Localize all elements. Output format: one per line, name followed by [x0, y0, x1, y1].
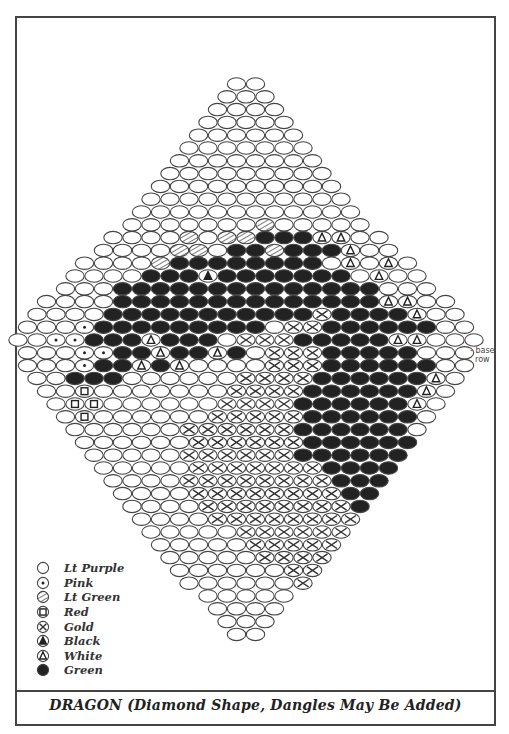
bead-pink [47, 334, 65, 346]
bead-green [313, 423, 331, 435]
bead-green [294, 449, 312, 461]
bead-gold [303, 487, 321, 499]
bead-green [189, 283, 207, 295]
bead-gold [303, 359, 321, 371]
bead-lt-purple [142, 219, 160, 231]
bead-green [398, 359, 416, 371]
bead-gold [208, 411, 226, 423]
bead-green [379, 347, 397, 359]
bead-gold [199, 500, 217, 512]
bead-lt-purple [132, 487, 150, 499]
bead-lt-purple [151, 487, 169, 499]
bead-gold [303, 513, 321, 525]
bead-green [94, 321, 112, 333]
bead-row [66, 270, 426, 282]
bead-pink [75, 359, 93, 371]
bead-green [370, 449, 388, 461]
bead-lt-purple [436, 295, 454, 307]
bead-gold [256, 398, 274, 410]
bead-lt-purple [104, 423, 122, 435]
bead-gold [265, 513, 283, 525]
bead-lt-purple [246, 180, 264, 192]
bead-green [227, 347, 245, 359]
bead-green [351, 449, 369, 461]
bead-gold [189, 436, 207, 448]
bead-gold [275, 475, 293, 487]
bead-lt-purple [256, 577, 274, 589]
bead-green [265, 295, 283, 307]
bead-lt-green [237, 231, 255, 243]
bead-gold [294, 577, 312, 589]
bead-gold [189, 462, 207, 474]
legend-item: Green [36, 663, 124, 678]
bead-lt-purple [218, 219, 236, 231]
bead-gold [303, 347, 321, 359]
bead-lt-purple [161, 231, 179, 243]
bead-gold [246, 539, 264, 551]
bead-lt-purple [227, 129, 245, 141]
legend-label: White [64, 649, 102, 663]
bead-gold [227, 513, 245, 525]
bead-green [237, 270, 255, 282]
bead-green [132, 321, 150, 333]
legend-label: Red [64, 605, 89, 619]
bead-gold [256, 372, 274, 384]
bead-lt-purple [142, 500, 160, 512]
bead-lt-purple [151, 539, 169, 551]
bead-gold [237, 423, 255, 435]
bead-gold [322, 539, 340, 551]
bead-lt-purple [303, 206, 321, 218]
bead-pink [94, 347, 112, 359]
bead-green [265, 257, 283, 269]
bead-lt-purple [199, 398, 217, 410]
bead-row [142, 193, 350, 205]
bead-lt-purple [208, 385, 226, 397]
bead-green [398, 385, 416, 397]
bead-row [161, 551, 331, 563]
bead-lt-purple [246, 603, 264, 615]
bead-lt-purple [37, 295, 55, 307]
bead-lt-purple [246, 347, 264, 359]
bead-lt-purple [275, 116, 293, 128]
bead-row [85, 449, 407, 461]
bead-lt-purple [227, 359, 245, 371]
bead-row [170, 155, 321, 167]
bead-gold [199, 449, 217, 461]
bead-lt-purple [85, 449, 103, 461]
bead-gold [256, 449, 274, 461]
bead-lt-purple [455, 321, 473, 333]
bead-green [408, 372, 426, 384]
bead-gold [303, 321, 321, 333]
bead-gold [313, 308, 331, 320]
bead-gold [294, 372, 312, 384]
bead-gold [294, 475, 312, 487]
bead-gold [256, 334, 274, 346]
bead-row [218, 91, 274, 103]
bead-green [341, 283, 359, 295]
bead-green [189, 257, 207, 269]
bead-row [218, 615, 274, 627]
x-circle-icon [36, 620, 50, 634]
bead-green [341, 347, 359, 359]
bead-gold [341, 513, 359, 525]
bead-lt-purple [104, 475, 122, 487]
bead-lt-purple [180, 551, 198, 563]
bead-row [180, 577, 312, 589]
bead-lt-green [151, 257, 169, 269]
bead-green [332, 449, 350, 461]
bead-lt-purple [170, 513, 188, 525]
bead-gold [322, 513, 340, 525]
bead-row [104, 475, 388, 487]
bead-lt-purple [94, 385, 112, 397]
bead-lt-purple [256, 193, 274, 205]
bead-gold [246, 385, 264, 397]
bead-green [113, 295, 131, 307]
bead-lt-purple [256, 590, 274, 602]
bead-green [351, 500, 369, 512]
bead-gold [256, 551, 274, 563]
bead-green [360, 462, 378, 474]
bead-lt-purple [408, 423, 426, 435]
bead-green [370, 398, 388, 410]
bead-green [389, 308, 407, 320]
bead-gold [256, 500, 274, 512]
